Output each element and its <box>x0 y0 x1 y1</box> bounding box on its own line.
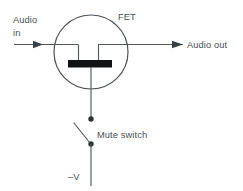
audio-out-label: Audio out <box>187 40 228 50</box>
audio-in-label-line1: Audio <box>13 15 37 25</box>
circuit-diagram: Audio in FET Audio out Mute switch –V <box>0 0 243 191</box>
supply-voltage-label: –V <box>68 172 80 182</box>
fet-label: FET <box>118 12 136 22</box>
mute-switch-label: Mute switch <box>97 130 147 140</box>
label-layer: Audio in FET Audio out Mute switch –V <box>0 0 243 191</box>
audio-in-label-line2: in <box>13 28 20 38</box>
